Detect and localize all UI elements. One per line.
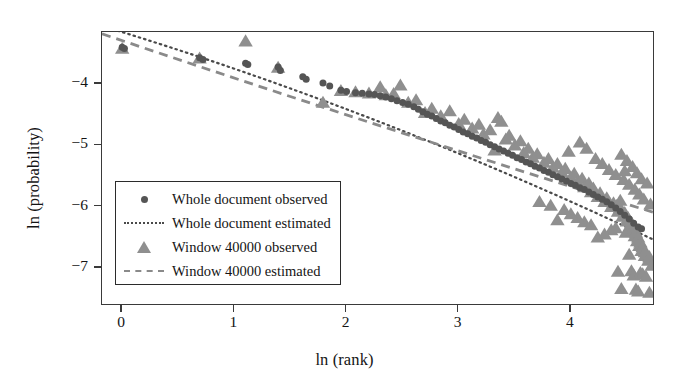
- x-tick-label: 4: [550, 313, 590, 331]
- x-tick-label: 0: [101, 313, 141, 331]
- data-point-circle: [199, 56, 206, 63]
- data-point-triangle: [532, 195, 546, 207]
- data-point-triangle: [614, 282, 628, 294]
- legend-entry-window-40000-observed: Window 40000 observed: [116, 235, 340, 259]
- data-point-circle: [326, 82, 333, 89]
- x-tick-label: 2: [326, 313, 366, 331]
- data-point-triangle: [557, 203, 571, 215]
- data-point-circle: [359, 90, 366, 97]
- dotted-line-icon: [116, 222, 172, 224]
- y-tick-mark: [94, 205, 101, 206]
- y-tick-label: −5: [42, 134, 88, 152]
- x-tick-label: 1: [213, 313, 253, 331]
- y-axis-title: ln (probability): [24, 48, 44, 308]
- x-axis-title: ln (rank): [0, 350, 689, 370]
- data-point-circle: [352, 89, 359, 96]
- data-point-triangle: [393, 78, 407, 90]
- legend-label: Window 40000 observed: [172, 240, 317, 255]
- data-point-circle: [277, 67, 284, 74]
- legend-entry-whole-document-estimated: Whole document estimated: [116, 211, 340, 235]
- y-tick-mark: [94, 144, 101, 145]
- data-point-circle: [638, 225, 645, 232]
- legend-label: Whole document observed: [172, 192, 327, 207]
- x-tick-mark: [345, 305, 346, 312]
- x-tick-mark: [457, 305, 458, 312]
- data-point-circle: [319, 79, 326, 86]
- legend-entry-whole-document-observed: Whole document observed: [116, 187, 340, 211]
- y-tick-mark: [94, 266, 101, 267]
- chart-legend: Whole document observed Whole document e…: [115, 181, 341, 285]
- data-point-triangle: [238, 34, 252, 46]
- data-point-circle: [343, 88, 350, 95]
- x-tick-mark: [233, 305, 234, 312]
- y-tick-label: −7: [42, 257, 88, 275]
- data-point-triangle: [543, 199, 557, 211]
- legend-entry-window-40000-estimated: Window 40000 estimated: [116, 259, 340, 283]
- x-tick-label: 3: [438, 313, 478, 331]
- circle-marker-icon: [116, 196, 172, 203]
- triangle-marker-icon: [116, 241, 172, 253]
- dashed-line-icon: [116, 270, 172, 272]
- y-tick-mark: [94, 82, 101, 83]
- data-point-circle: [121, 45, 128, 52]
- figure-scatter-rank-probability: 01234 −4−5−6−7 ln (rank) ln (probability…: [0, 0, 689, 384]
- data-point-triangle: [550, 213, 564, 225]
- y-tick-label: −6: [42, 196, 88, 214]
- data-point-triangle: [502, 129, 516, 141]
- data-point-circle: [244, 61, 251, 68]
- data-point-triangle: [611, 265, 625, 277]
- data-point-triangle: [443, 104, 457, 116]
- y-tick-label: −4: [42, 73, 88, 91]
- x-tick-mark: [569, 305, 570, 312]
- data-point-circle: [303, 76, 310, 83]
- legend-label: Whole document estimated: [172, 216, 331, 231]
- data-point-triangle: [642, 286, 654, 298]
- legend-label: Window 40000 estimated: [172, 264, 320, 279]
- x-tick-mark: [120, 305, 121, 312]
- data-point-triangle: [472, 118, 486, 130]
